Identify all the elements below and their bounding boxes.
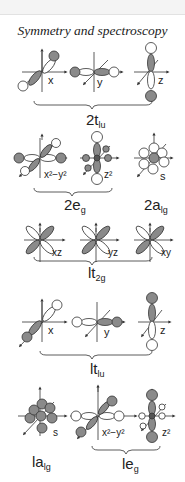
orbital-2a1g-s <box>134 134 172 176</box>
group-label-1eg: leg <box>122 455 139 474</box>
label-1eg-x2y2: x²−y² <box>102 427 125 438</box>
label-1a1g-s: s <box>53 427 58 438</box>
label-1t1u-x: x <box>48 324 54 336</box>
label-1t1u-z: z <box>160 324 166 336</box>
group-label-1a1g: lalg <box>32 453 51 472</box>
orbital-2t1u-y <box>70 52 122 92</box>
brace-2t1u <box>34 101 152 109</box>
brace-2eg <box>34 188 112 196</box>
orbital-2t1u-x <box>18 50 66 92</box>
orbital-diagram: x y z x²−y² z² s xz yz xy x y z s x²−y² … <box>0 0 185 482</box>
label-2a1g-s: s <box>160 170 166 182</box>
brace-1eg <box>92 446 160 454</box>
label-1t2g-xz: xz <box>52 247 62 258</box>
label-2t1u-x: x <box>48 74 54 86</box>
label-2eg-z2: z² <box>104 169 113 180</box>
orbital-2t1u-z <box>134 43 168 102</box>
group-label-2a1g: 2alg <box>144 196 168 215</box>
label-1t2g-yz: yz <box>108 247 118 258</box>
orbital-1t1u-z <box>138 293 170 351</box>
brace-1t1u <box>40 351 152 359</box>
label-1t1u-y: y <box>104 326 110 338</box>
orbital-1t1u-x <box>20 300 66 346</box>
group-label-1t1u: ltlu <box>90 360 105 379</box>
label-1t2g-xy: xy <box>161 247 171 258</box>
label-2t1u-y: y <box>97 76 103 88</box>
label-2t1u-z: z <box>158 74 164 86</box>
orbital-1a1g-s <box>18 388 66 436</box>
label-1eg-z2: z² <box>162 427 171 438</box>
group-label-1t2g: lt2g <box>88 264 106 283</box>
group-label-2eg: 2eg <box>64 196 86 215</box>
group-label-2t1u: 2tlu <box>86 111 106 130</box>
orbital-1t1u-y <box>72 302 124 342</box>
label-2eg-x2y2: x²−y² <box>44 169 67 180</box>
